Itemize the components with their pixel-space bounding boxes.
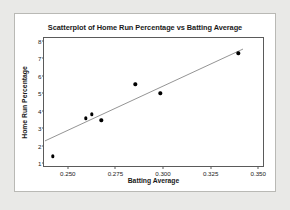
y-tick-label: 3 — [38, 125, 41, 132]
x-tick-mark — [67, 166, 68, 169]
y-tick-label: 5 — [38, 90, 41, 97]
y-tick-mark — [42, 163, 45, 164]
y-tick-label: 7 — [38, 55, 41, 62]
x-tick-mark — [210, 166, 211, 169]
y-axis-title: Home Run Percentage — [20, 37, 29, 167]
x-tick-label: 0.300 — [155, 170, 170, 177]
y-tick-mark — [42, 110, 45, 111]
x-tick-mark — [258, 166, 259, 169]
y-tick-label: 6 — [38, 72, 41, 79]
y-tick-mark — [42, 40, 45, 41]
x-tick-mark — [115, 166, 116, 169]
chart-title: Scatterplot of Home Run Percentage vs Ba… — [15, 23, 275, 32]
y-tick-mark — [42, 145, 45, 146]
y-tick-mark — [42, 58, 45, 59]
x-tick-label: 0.250 — [60, 170, 75, 177]
figure-panel: Scatterplot of Home Run Percentage vs Ba… — [14, 13, 276, 192]
data-layer — [44, 38, 263, 166]
y-tick-mark — [42, 93, 45, 94]
y-tick-mark — [42, 128, 45, 129]
y-axis-title-label: Home Run Percentage — [21, 66, 28, 139]
plot-area: 123456780.2500.2750.3000.3250.350 — [43, 37, 264, 167]
x-axis-title: Batting Average — [43, 177, 264, 184]
y-tick-label: 2 — [38, 142, 41, 149]
y-tick-label: 1 — [38, 160, 41, 167]
regression-line — [44, 38, 263, 166]
x-tick-label: 0.275 — [108, 170, 123, 177]
x-tick-mark — [163, 166, 164, 169]
x-tick-label: 0.350 — [250, 170, 265, 177]
y-tick-label: 8 — [38, 37, 41, 44]
x-tick-label: 0.325 — [203, 170, 218, 177]
y-tick-label: 4 — [38, 107, 41, 114]
y-tick-mark — [42, 75, 45, 76]
